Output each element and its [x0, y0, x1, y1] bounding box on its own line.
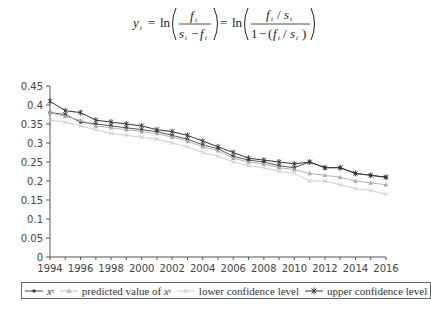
y-tick-label: 0.45 [21, 81, 43, 92]
legend-dot-marker-icon [25, 286, 43, 296]
svg-text:): ) [302, 26, 306, 41]
svg-text:t: t [290, 15, 293, 23]
y-tick-label: 0.25 [21, 157, 43, 168]
line-chart: 00.050.10.150.20.250.30.350.40.451994199… [0, 76, 407, 286]
svg-text:=: = [148, 15, 155, 30]
y-tick-label: 0.15 [21, 195, 43, 206]
svg-text:s: s [179, 26, 184, 41]
y-tick-label: 0.4 [27, 100, 43, 111]
legend-item-predicted: predicted value of xt [60, 285, 171, 297]
svg-text:1: 1 [251, 26, 258, 41]
x-tick-label: 2008 [251, 263, 276, 274]
legend-item-upper: upper confidence level [305, 285, 427, 297]
data-point [216, 144, 221, 150]
legend-cross-marker-icon [177, 286, 195, 296]
series-line [50, 101, 386, 177]
svg-text:(: ( [268, 26, 272, 41]
series-line [50, 120, 386, 194]
svg-text:=: = [220, 15, 227, 30]
y-tick-label: 0.35 [21, 119, 43, 130]
legend-item-xt: xt [25, 285, 54, 297]
svg-text:ln: ln [160, 15, 171, 30]
data-point [200, 138, 205, 144]
x-tick-label: 2016 [373, 263, 398, 274]
svg-text:−: − [191, 26, 198, 41]
x-tick-label: 2010 [282, 263, 307, 274]
legend-triangle-marker-icon [60, 286, 78, 296]
formula: y t = ln f t s t − f t = ln f t / s t 1 … [0, 2, 407, 46]
chart-plot-area: 00.050.10.150.20.250.30.350.40.451994199… [0, 76, 407, 286]
svg-text:t: t [195, 16, 198, 24]
y-tick-label: 0.1 [27, 214, 43, 225]
y-tick-label: 0.05 [21, 233, 43, 244]
data-point [48, 98, 53, 104]
x-tick-label: 1998 [98, 263, 123, 274]
formula-svg: y t = ln f t s t − f t = ln f t / s t 1 … [0, 2, 407, 46]
formula-y: y [131, 15, 139, 30]
legend-star-marker-icon [305, 286, 323, 296]
x-tick-label: 1996 [68, 263, 93, 274]
svg-text:−: − [259, 26, 266, 41]
y-tick-label: 0.3 [27, 138, 43, 149]
x-tick-label: 2012 [312, 263, 337, 274]
x-tick-label: 2014 [343, 263, 368, 274]
x-tick-label: 2002 [159, 263, 184, 274]
svg-text:t: t [140, 24, 143, 32]
svg-text:t: t [205, 34, 208, 42]
y-tick-label: 0.2 [27, 176, 43, 187]
svg-text:/: / [283, 26, 287, 41]
svg-text:s: s [284, 7, 289, 22]
svg-text:t: t [185, 34, 188, 42]
x-tick-label: 2004 [190, 263, 215, 274]
svg-text:t: t [278, 34, 281, 42]
x-tick-label: 2006 [221, 263, 246, 274]
svg-text:t: t [296, 34, 299, 42]
y-tick-label: 0 [37, 252, 43, 263]
svg-text:s: s [290, 26, 295, 41]
svg-text:t: t [271, 15, 274, 23]
x-tick-label: 1994 [37, 263, 62, 274]
chart-legend: xt predicted value of xt lower confidenc… [21, 282, 431, 299]
legend-item-lower: lower confidence level [177, 285, 299, 297]
data-point [231, 150, 236, 156]
x-tick-label: 2000 [129, 263, 154, 274]
svg-text:/: / [277, 7, 281, 22]
svg-text:ln: ln [232, 15, 243, 30]
